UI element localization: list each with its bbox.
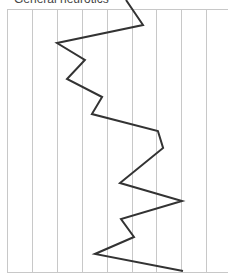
chart-grid xyxy=(7,10,228,273)
profile-chart xyxy=(0,0,228,279)
series-line xyxy=(57,0,183,271)
